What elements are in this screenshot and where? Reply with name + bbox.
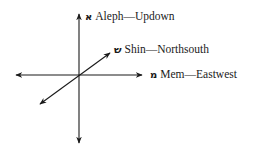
- mem-label-text: Mem—Eastwest: [160, 68, 237, 80]
- aleph-label-text: Aleph—Updown: [95, 10, 174, 22]
- shin-letter: ש: [114, 44, 122, 55]
- aleph-letter: א: [85, 11, 92, 22]
- shin-label-text: Shin—Northsouth: [125, 43, 209, 55]
- shin-label: שShin—Northsouth: [114, 44, 209, 56]
- northsouth-axis: [40, 53, 110, 104]
- mem-letter: מ: [150, 69, 157, 80]
- mem-label: מMem—Eastwest: [150, 69, 237, 81]
- aleph-label: אAleph—Updown: [85, 11, 175, 23]
